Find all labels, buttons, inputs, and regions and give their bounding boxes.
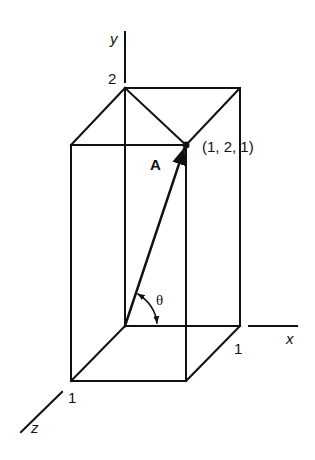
z-axis-label: z: [30, 419, 39, 436]
vector-diagram: y 2 x 1 z 1 A (1, 2, 1) θ: [0, 0, 315, 460]
point-dot: [183, 142, 190, 149]
theta-label: θ: [156, 292, 163, 308]
box-edge-top-right: [186, 88, 240, 145]
vector-a-arrow: [125, 149, 184, 326]
y-tick-label: 2: [108, 70, 116, 87]
vector-a-label: A: [150, 156, 161, 173]
box-edge-bottom-right: [186, 326, 240, 381]
x-tick-label: 1: [234, 340, 242, 357]
box-edge-bottom-left: [71, 326, 125, 381]
box-top-diagonal: [125, 88, 186, 145]
box-edge-top-left: [71, 88, 125, 145]
y-axis-label: y: [109, 30, 119, 47]
point-coordinates-label: (1, 2, 1): [202, 138, 254, 155]
x-axis-label: x: [285, 330, 294, 347]
z-axis-line: [21, 392, 62, 432]
theta-angle-arc: [138, 294, 157, 323]
z-tick-label: 1: [68, 389, 76, 406]
